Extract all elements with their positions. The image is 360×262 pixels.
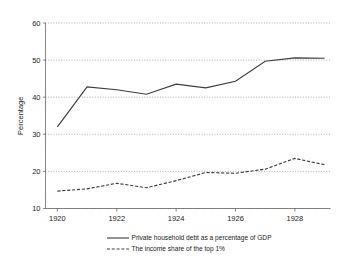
y-tick-label-60: 60 <box>32 19 40 28</box>
y-tick-label-30: 30 <box>32 130 40 139</box>
data-series-group <box>57 58 324 191</box>
y-tick-label-20: 20 <box>32 167 40 176</box>
y-tick-labels-group: 102030405060 <box>32 19 45 214</box>
x-tick-label-1922: 1922 <box>108 214 125 223</box>
y-tick-label-40: 40 <box>32 93 40 102</box>
chart-container: 102030405060 19201922192419261928 Percen… <box>0 0 360 262</box>
x-tick-label-1920: 1920 <box>49 214 66 223</box>
x-tick-labels-group: 19201922192419261928 <box>49 209 303 223</box>
y-tick-label-10: 10 <box>32 204 40 213</box>
x-tick-label-1926: 1926 <box>227 214 244 223</box>
x-tick-label-1928: 1928 <box>287 214 304 223</box>
chart-legend: Private household debt as a percentage o… <box>107 234 272 253</box>
series-line-0 <box>57 58 324 127</box>
y-axis-title: Percentage <box>16 97 25 135</box>
legend-label-1: The income share of the top 1% <box>132 245 226 253</box>
axes-group <box>46 23 331 209</box>
legend-label-0: Private household debt as a percentage o… <box>132 234 273 242</box>
line-chart: 102030405060 19201922192419261928 Percen… <box>0 0 360 262</box>
gridlines-group <box>46 23 331 209</box>
x-tick-label-1924: 1924 <box>168 214 185 223</box>
series-line-1 <box>57 158 324 191</box>
y-tick-label-50: 50 <box>32 56 40 65</box>
